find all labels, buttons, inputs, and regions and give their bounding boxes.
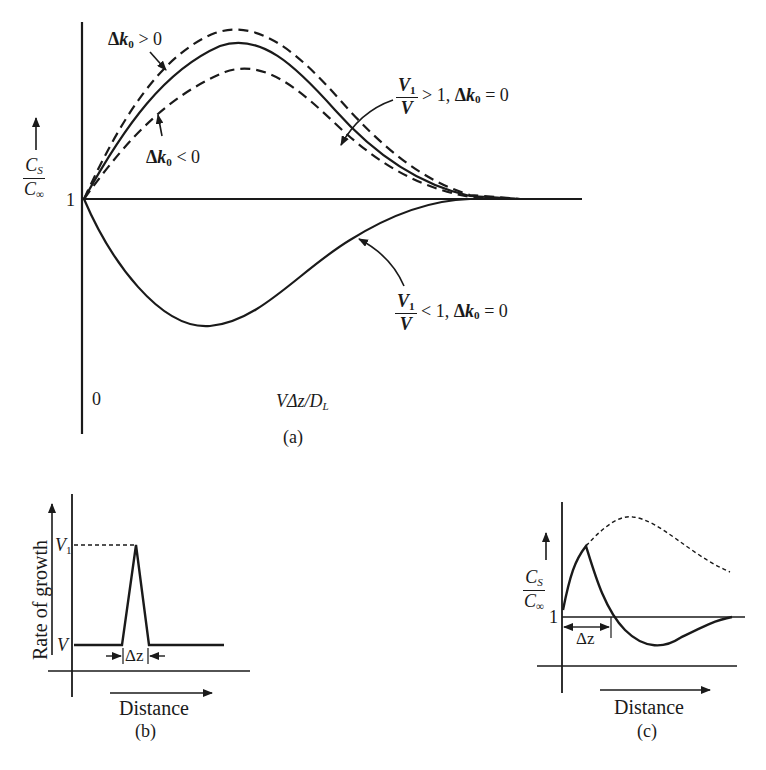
figure-canvas [0, 0, 766, 770]
label-dk-negative: Δk0 < 0 [146, 148, 200, 168]
arrow-dk-negative [158, 115, 162, 136]
panel-b-dz-label: Δz [125, 647, 143, 664]
panel-b-caption: (b) [135, 722, 156, 740]
panel-c-dz-label: Δz [576, 630, 594, 647]
arrow-v1-gt-v [341, 100, 393, 145]
arrow-dk-positive [150, 52, 166, 70]
panel-c-x-axis-label: Distance [614, 697, 684, 717]
panel-b-tick-v1: V1 [55, 536, 72, 556]
panel-a-x-axis-label: VΔz/DL [276, 392, 329, 413]
panel-b-y-axis-label: Rate of growth [30, 540, 50, 660]
panel-c-y-axis-label: CSC∞ [522, 568, 546, 611]
panel-c [537, 502, 745, 693]
panel-c-caption: (c) [637, 722, 657, 740]
arrow-v1-lt-v [359, 239, 404, 286]
panel-a-origin-label: 0 [92, 390, 101, 408]
panel-b-growth-rate [74, 545, 224, 645]
panel-b [48, 494, 250, 697]
panel-c-dashed-curve [586, 517, 730, 572]
panel-b-x-axis-label: Distance [119, 698, 189, 718]
label-v1-gt-v: V1V > 1, Δk0 = 0 [396, 76, 509, 117]
panel-a-caption: (a) [283, 428, 303, 446]
panel-a-y-tick-one: 1 [66, 191, 75, 209]
panel-a-y-axis-label: CSC∞ [22, 156, 46, 199]
panel-c-y-tick-one: 1 [549, 608, 558, 626]
label-dk-positive: Δk0 > 0 [108, 30, 162, 50]
panel-b-tick-v: V [57, 636, 68, 654]
label-v1-lt-v: V1V < 1, Δk0 = 0 [395, 292, 508, 333]
